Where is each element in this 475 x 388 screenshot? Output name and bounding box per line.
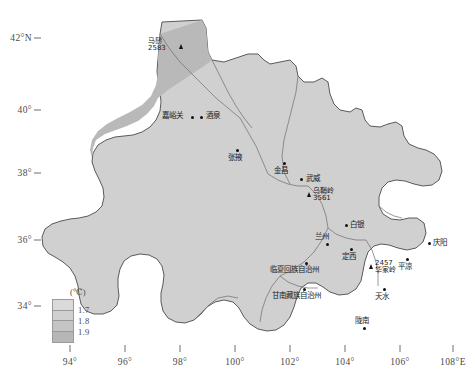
city-label-tianshui: 天水: [375, 293, 389, 301]
city-dot-jiayuguan: [191, 116, 194, 119]
city-label-qingyang: 庆阳: [433, 239, 447, 247]
legend-tick-2: 1.9: [78, 327, 90, 337]
city-dot-dingxi: [350, 248, 353, 251]
city-dot-pingliang: [406, 258, 409, 261]
city-dot-wuwei: [300, 178, 303, 181]
peak-label-huajialing: 2457 华家岭: [375, 260, 396, 275]
ytick-36: 36°: [18, 235, 33, 245]
city-label-linxia: 临夏回族自治州: [270, 266, 319, 274]
x-axis-labels: 94° 96° 98° 100° 102° 104° 106° 108°E: [0, 357, 475, 377]
xtick-106: 106°: [390, 357, 410, 367]
city-dot-jiuquan: [200, 116, 203, 119]
city-dot-baiyin: [345, 224, 348, 227]
city-label-longnan: 陇南: [355, 317, 369, 325]
city-dot-jinchang: [283, 162, 286, 165]
city-dot-lanzhou: [326, 243, 329, 246]
city-dot-qingyang: [428, 242, 431, 245]
legend-unit-label: (℃): [70, 287, 86, 297]
y-axis-labels: 42°N 40° 38° 36° 34°: [0, 0, 32, 388]
xtick-108: 108°E: [440, 357, 466, 367]
xtick-100: 100°: [225, 357, 245, 367]
city-label-baiyin: 白银: [350, 221, 364, 229]
city-label-dingxi: 定西: [342, 253, 356, 261]
city-label-jiuquan: 酒泉: [206, 112, 220, 120]
city-label-lanzhou: 兰州: [315, 233, 329, 241]
city-label-zhangye: 张掖: [228, 154, 242, 162]
map-figure: 马鬃 2583 嘉峪关 酒泉 张掖 金昌 武威 乌鞘岭 3561 白银 兰州: [0, 0, 475, 388]
ytick-40: 40°: [18, 105, 33, 115]
xtick-94: 94°: [63, 357, 78, 367]
peak-label-wushaoling: 乌鞘岭 3561: [313, 188, 334, 203]
peak-marker-mazongshan: [179, 44, 183, 49]
city-dot-tianshui: [383, 288, 386, 291]
gansu-polygon-group: [42, 20, 442, 331]
city-label-jiayuguan: 嘉峪关: [162, 112, 183, 120]
legend-color-ramp: [52, 299, 74, 343]
peak-marker-wushaoling: [307, 192, 311, 197]
peak-elev-mazongshan: 2583: [148, 44, 166, 52]
legend-band-1: [53, 311, 73, 322]
city-label-pingliang: 平凉: [398, 263, 412, 271]
ytick-42: 42°N: [10, 33, 32, 43]
gansu-province-outline: [42, 20, 442, 331]
peak-name-huajialing: 华家岭: [375, 266, 396, 274]
city-dot-zhangye: [236, 149, 239, 152]
xtick-104: 104°: [335, 357, 355, 367]
legend-tick-1: 1.8: [78, 316, 90, 326]
city-label-jinchang: 金昌: [274, 167, 288, 175]
xtick-98: 98°: [173, 357, 188, 367]
peak-marker-huajialing: [369, 264, 373, 269]
xtick-96: 96°: [118, 357, 133, 367]
city-label-wuwei: 武威: [306, 175, 320, 183]
xtick-102: 102°: [280, 357, 300, 367]
legend-band-0: [53, 300, 73, 311]
city-label-gannan: 甘南藏族自治州: [272, 292, 321, 300]
legend: (℃) 1.7 1.8 1.9: [52, 288, 118, 344]
legend-tick-0: 1.7: [78, 305, 90, 315]
peak-label-mazongshan: 马鬃 2583: [148, 38, 166, 53]
ytick-34: 34°: [18, 301, 33, 311]
legend-tick-labels: 1.7 1.8 1.9: [78, 299, 118, 343]
city-dot-longnan: [363, 327, 366, 330]
peak-elev-wushaoling: 3561: [313, 194, 331, 202]
legend-band-2: [53, 321, 73, 332]
legend-band-3: [53, 332, 73, 343]
ytick-38: 38°: [18, 168, 33, 178]
